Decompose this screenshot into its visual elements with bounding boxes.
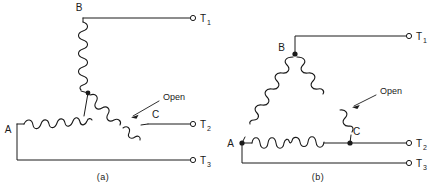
svg-text:T: T [416,158,422,169]
panel-b-terminal-label-t2: T 2 [416,138,427,151]
panel-a-label-c: C [152,109,159,120]
svg-text:T: T [416,138,422,149]
panel-a-label-b: B [76,2,83,13]
panel-b-caption: (b) [312,172,325,182]
panel-a-a-coil-to-node [84,93,88,116]
panel-b-terminal-t3 [406,160,411,165]
svg-text:T: T [200,119,206,130]
panel-b-terminal-label-t3: T 3 [416,158,427,171]
figure-root: B A C Open T 1 T 2 T 3 (a) [0,0,434,183]
panel-a-wye: B A C Open T 1 T 2 T 3 (a) [5,2,211,182]
panel-b-label-open: Open [380,86,402,96]
svg-text:2: 2 [207,125,211,132]
svg-text:1: 1 [207,19,211,26]
panel-a-c-coil-to-node [141,124,148,125]
svg-text:1: 1 [423,37,427,44]
panel-a-terminal-t1 [190,15,195,20]
panel-b-terminal-t1 [406,33,411,38]
panel-a-caption: (a) [97,172,110,182]
panel-a-terminal-t3 [190,157,195,162]
panel-a-coil-c-upper [90,94,121,125]
panel-a-coil-b [79,22,88,90]
panel-b-lead-t1 [295,36,406,54]
svg-text:T: T [200,13,206,24]
panel-a-label-open: Open [163,92,185,102]
panel-b-label-c: C [353,126,360,137]
panel-a-coil-a [24,118,92,129]
panel-a-terminal-t2 [190,121,195,126]
panel-a-center-junction-dot [86,91,91,96]
svg-text:3: 3 [207,161,211,168]
panel-a-label-a: A [5,124,12,135]
panel-b-open-arrowhead [352,105,360,109]
svg-text:T: T [200,155,206,166]
winding-connections-figure: B A C Open T 1 T 2 T 3 (a) [0,0,434,183]
panel-a-terminal-label-t3: T 3 [200,155,211,168]
svg-text:2: 2 [423,144,427,151]
panel-b-coil-bc-upper [297,57,324,94]
panel-b-delta: B A C Open T 1 T 2 T 3 (b) [227,31,427,182]
svg-text:3: 3 [423,164,427,171]
panel-b-open-leader-line [354,95,376,106]
panel-b-terminal-label-t1: T 1 [416,31,427,44]
panel-b-label-a: A [227,138,234,149]
panel-a-coil-c-lower [123,127,140,140]
panel-b-coil-ca [252,137,324,149]
panel-b-label-b: B [278,42,285,53]
panel-b-junction-dot-c [347,140,352,145]
panel-a-terminal-label-t2: T 2 [200,119,211,132]
panel-b-coil-bc-lower [340,110,353,132]
panel-b-terminal-t2 [406,140,411,145]
svg-text:T: T [416,31,422,42]
panel-b-junction-dot-b [292,51,297,56]
panel-b-coil-ab [250,57,293,124]
panel-b-junction-dot-a [239,140,244,145]
panel-a-terminal-label-t1: T 1 [200,13,211,26]
panel-a-lead-t3 [17,124,190,160]
